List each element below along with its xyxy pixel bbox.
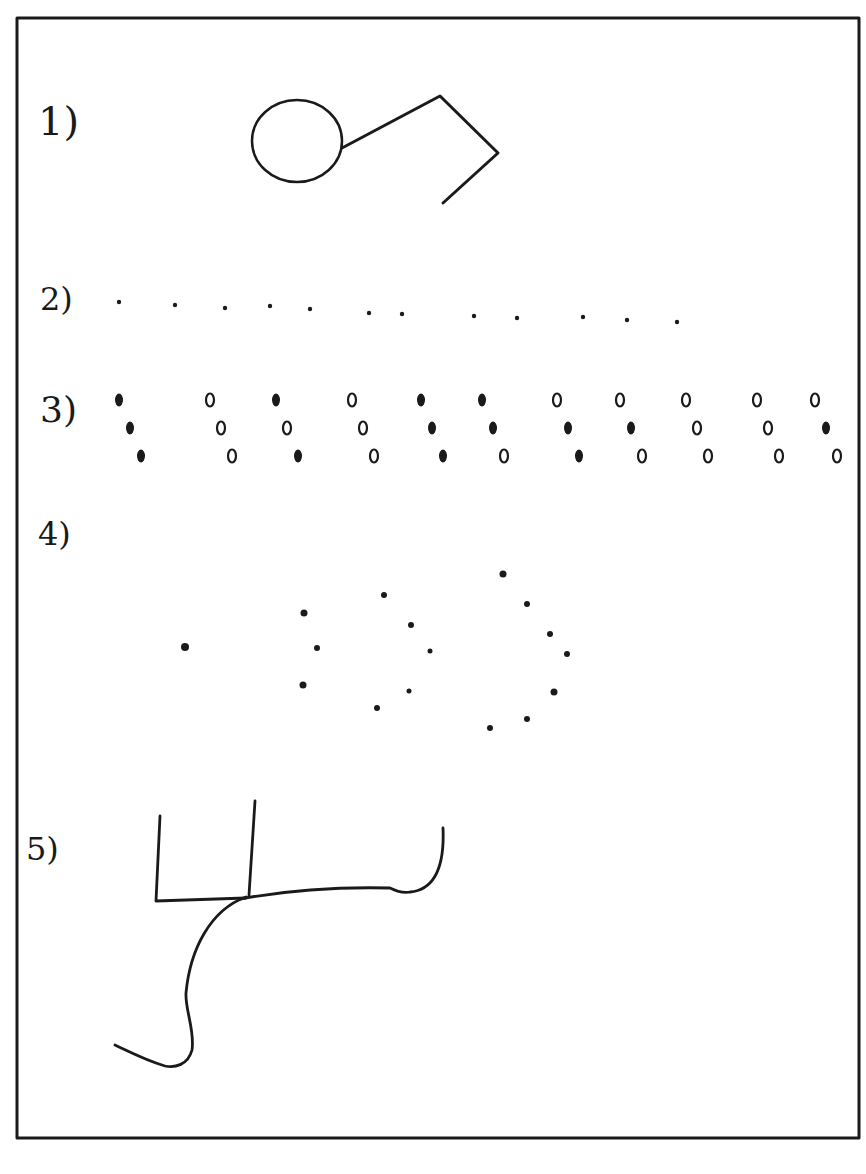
dot	[308, 307, 312, 311]
filled-mark	[115, 394, 123, 407]
dot	[374, 705, 380, 711]
item-1-group: 1)	[38, 96, 498, 203]
item-3-triplet-row	[115, 394, 841, 463]
line-stroke	[156, 816, 246, 901]
item-5-label: 5)	[26, 830, 59, 868]
open-mark	[500, 450, 508, 463]
open-mark	[704, 450, 712, 463]
mark-triplet	[811, 394, 841, 463]
item-5-group: 5)	[26, 801, 443, 1067]
filled-mark	[439, 450, 447, 463]
filled-mark	[478, 394, 486, 407]
filled-mark	[137, 450, 145, 463]
open-mark	[753, 394, 761, 407]
mark-triplet	[417, 394, 447, 463]
item-1-label: 1)	[38, 98, 79, 144]
item-3-label: 3)	[40, 389, 77, 430]
item-1-circle	[252, 100, 342, 182]
open-mark	[682, 394, 690, 407]
dot	[625, 318, 629, 322]
dot	[551, 689, 558, 696]
filled-mark	[489, 422, 497, 435]
dot	[268, 304, 272, 308]
open-mark	[283, 422, 291, 435]
open-mark	[833, 450, 841, 463]
mark-triplet	[348, 394, 378, 463]
dot	[428, 649, 433, 654]
dot	[581, 315, 585, 319]
dot	[564, 651, 570, 657]
item-1-diamond	[342, 96, 498, 203]
item-3-group: 3)	[40, 389, 841, 463]
item-4-dot-pattern	[181, 571, 570, 732]
mark-triplet	[478, 394, 508, 463]
dot	[500, 571, 507, 578]
filled-mark	[126, 422, 134, 435]
line-stroke	[240, 828, 443, 899]
item-2-label: 2)	[40, 280, 73, 318]
mark-triplet	[272, 394, 302, 463]
dot	[181, 643, 189, 651]
filled-mark	[272, 394, 280, 407]
open-mark	[775, 450, 783, 463]
open-mark	[811, 394, 819, 407]
dot	[524, 716, 530, 722]
filled-mark	[417, 394, 425, 407]
mark-triplet	[682, 394, 712, 463]
dot	[547, 631, 553, 637]
open-mark	[359, 422, 367, 435]
open-mark	[764, 422, 772, 435]
filled-mark	[294, 450, 302, 463]
filled-mark	[627, 422, 635, 435]
dot	[675, 320, 679, 324]
dot	[408, 622, 414, 628]
open-mark	[553, 394, 561, 407]
open-mark	[217, 422, 225, 435]
dot	[515, 316, 519, 320]
line-stroke	[249, 801, 255, 895]
dot	[407, 689, 412, 694]
filled-mark	[822, 422, 830, 435]
item-2-dot-row	[117, 300, 679, 324]
dot	[472, 314, 476, 318]
line-stroke	[115, 897, 246, 1067]
dot	[300, 682, 307, 689]
dot	[381, 592, 387, 598]
item-4-label: 4)	[38, 515, 71, 553]
dot	[173, 303, 177, 307]
item-5-line-drawing	[115, 801, 443, 1067]
mark-triplet	[753, 394, 783, 463]
open-mark	[616, 394, 624, 407]
dot	[301, 610, 308, 617]
open-mark	[228, 450, 236, 463]
dot	[223, 306, 227, 310]
open-mark	[206, 394, 214, 407]
item-2-group: 2)	[40, 280, 679, 324]
mark-triplet	[553, 394, 583, 463]
filled-mark	[428, 422, 436, 435]
open-mark	[693, 422, 701, 435]
mark-triplet	[115, 394, 145, 463]
figure-frame	[17, 18, 859, 1138]
dot	[314, 645, 320, 651]
open-mark	[638, 450, 646, 463]
mark-triplet	[616, 394, 646, 463]
dot	[400, 312, 404, 316]
dot	[487, 725, 493, 731]
dot	[117, 300, 121, 304]
open-mark	[348, 394, 356, 407]
open-mark	[370, 450, 378, 463]
dot	[524, 601, 530, 607]
mark-triplet	[206, 394, 236, 463]
filled-mark	[564, 422, 572, 435]
dot	[367, 311, 371, 315]
figure-canvas: 1) 2) 3) 4) 5)	[0, 0, 866, 1174]
filled-mark	[575, 450, 583, 463]
item-4-group: 4)	[38, 515, 570, 731]
